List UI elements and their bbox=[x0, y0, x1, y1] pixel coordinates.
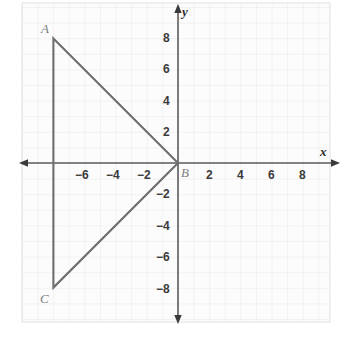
x-tick-label-pos8: 8 bbox=[299, 169, 306, 181]
y-tick-label-pos6: 6 bbox=[163, 63, 170, 75]
y-tick-label-neg4: −4 bbox=[156, 220, 170, 232]
coordinate-plane-svg bbox=[0, 0, 350, 347]
x-axis-label: x bbox=[320, 145, 327, 158]
x-tick-label-pos2: 2 bbox=[206, 169, 213, 181]
x-tick-label-neg4: −4 bbox=[106, 169, 120, 181]
y-tick-label-pos2: 2 bbox=[163, 126, 170, 138]
x-tick-label-pos6: 6 bbox=[268, 169, 275, 181]
y-tick-label-neg6: −6 bbox=[156, 251, 170, 263]
x-tick-label-neg6: −6 bbox=[75, 169, 89, 181]
y-axis-label: y bbox=[182, 5, 188, 18]
y-tick-label-pos8: 8 bbox=[163, 32, 170, 44]
x-tick-label-pos4: 4 bbox=[237, 169, 244, 181]
vertex-label-c: C bbox=[40, 292, 49, 305]
y-tick-label-pos4: 4 bbox=[163, 95, 170, 107]
coordinate-plane-figure: −6 −4 −2 2 4 6 8 8 6 4 2 −2 −4 −6 −8 A B… bbox=[0, 0, 350, 347]
y-tick-label-neg2: −2 bbox=[156, 188, 170, 200]
vertex-label-b: B bbox=[181, 166, 189, 179]
vertex-label-a: A bbox=[41, 22, 49, 35]
x-tick-label-neg2: −2 bbox=[137, 169, 151, 181]
y-tick-label-neg8: −8 bbox=[156, 283, 170, 295]
